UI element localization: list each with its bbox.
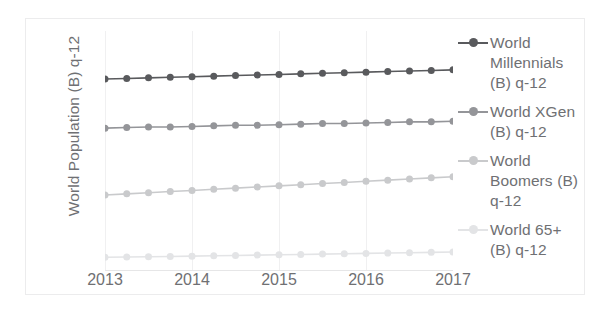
data-point[interactable] — [105, 76, 109, 83]
legend-entry-3[interactable]: World Boomers (B) q-12 — [458, 151, 580, 211]
data-point[interactable] — [189, 73, 196, 80]
y-axis-title: World Population (B) q-12 — [65, 16, 83, 236]
data-point[interactable] — [341, 120, 348, 127]
x-tick-label-2015: 2015 — [261, 271, 297, 289]
data-point[interactable] — [363, 120, 370, 127]
data-point[interactable] — [276, 251, 283, 258]
data-point[interactable] — [297, 181, 304, 188]
data-point[interactable] — [384, 119, 391, 126]
legend-dot — [469, 38, 478, 47]
line-chart-svg — [105, 31, 453, 271]
legend-entry-2[interactable]: World XGen (B) q-12 — [458, 102, 580, 142]
legend-label: World 65+ (B) q-12 — [490, 220, 580, 260]
chart-legend: World Millennials (B) q-12World XGen (B)… — [458, 33, 580, 269]
legend-entry-1[interactable]: World Millennials (B) q-12 — [458, 33, 580, 93]
legend-marker-icon — [458, 33, 488, 52]
data-point[interactable] — [363, 69, 370, 76]
chart-container: World Population (B) q-12 20132014201520… — [25, 18, 585, 295]
data-point[interactable] — [450, 249, 454, 256]
plot-area — [105, 31, 453, 271]
data-point[interactable] — [189, 253, 196, 260]
data-point[interactable] — [297, 70, 304, 77]
data-point[interactable] — [384, 177, 391, 184]
data-point[interactable] — [105, 125, 109, 132]
legend-label: World XGen (B) q-12 — [490, 102, 580, 142]
data-point[interactable] — [232, 252, 239, 259]
data-point[interactable] — [210, 73, 217, 80]
data-point[interactable] — [254, 184, 261, 191]
data-point[interactable] — [341, 179, 348, 186]
data-point[interactable] — [105, 254, 109, 261]
data-point[interactable] — [384, 250, 391, 257]
data-point[interactable] — [406, 249, 413, 256]
data-point[interactable] — [167, 124, 174, 131]
data-point[interactable] — [406, 176, 413, 183]
data-point[interactable] — [319, 180, 326, 187]
data-point[interactable] — [297, 251, 304, 258]
data-point[interactable] — [363, 250, 370, 257]
data-point[interactable] — [123, 75, 130, 82]
data-point[interactable] — [384, 68, 391, 75]
data-point[interactable] — [319, 120, 326, 127]
data-point[interactable] — [145, 189, 152, 196]
data-point[interactable] — [406, 68, 413, 75]
data-point[interactable] — [341, 69, 348, 76]
legend-entry-4[interactable]: World 65+ (B) q-12 — [458, 220, 580, 260]
data-point[interactable] — [145, 74, 152, 81]
data-point[interactable] — [450, 118, 454, 125]
x-tick-label-2017: 2017 — [435, 271, 471, 289]
data-point[interactable] — [105, 192, 109, 199]
legend-dot — [469, 107, 478, 116]
x-axis-tick-labels: 20132014201520162017 — [105, 271, 453, 299]
legend-marker-icon — [458, 220, 488, 239]
data-point[interactable] — [145, 253, 152, 260]
data-point[interactable] — [210, 122, 217, 129]
legend-dot — [469, 156, 478, 165]
gridlines — [106, 31, 454, 271]
data-point[interactable] — [210, 186, 217, 193]
data-point[interactable] — [254, 122, 261, 129]
data-point[interactable] — [123, 124, 130, 131]
data-point[interactable] — [123, 190, 130, 197]
data-point[interactable] — [319, 251, 326, 258]
data-point[interactable] — [232, 185, 239, 192]
data-point[interactable] — [428, 249, 435, 256]
data-point[interactable] — [232, 122, 239, 129]
data-point[interactable] — [210, 252, 217, 259]
data-point[interactable] — [167, 253, 174, 260]
data-point[interactable] — [167, 74, 174, 81]
legend-label: World Millennials (B) q-12 — [490, 33, 580, 93]
legend-marker-icon — [458, 151, 488, 170]
data-point[interactable] — [428, 174, 435, 181]
legend-marker-icon — [458, 102, 488, 121]
data-point[interactable] — [145, 124, 152, 131]
data-point[interactable] — [232, 72, 239, 79]
legend-label: World Boomers (B) q-12 — [490, 151, 580, 211]
data-point[interactable] — [189, 187, 196, 194]
data-point[interactable] — [406, 118, 413, 125]
legend-dot — [469, 225, 478, 234]
data-point[interactable] — [189, 123, 196, 130]
x-tick-label-2013: 2013 — [87, 271, 123, 289]
data-point[interactable] — [428, 118, 435, 125]
data-point[interactable] — [276, 71, 283, 78]
data-point[interactable] — [276, 121, 283, 128]
data-point[interactable] — [167, 188, 174, 195]
data-point[interactable] — [276, 182, 283, 189]
data-point[interactable] — [254, 72, 261, 79]
x-tick-label-2014: 2014 — [174, 271, 210, 289]
x-tick-label-2016: 2016 — [348, 271, 384, 289]
data-point[interactable] — [123, 254, 130, 261]
data-point[interactable] — [450, 173, 454, 180]
data-point[interactable] — [428, 67, 435, 74]
data-point[interactable] — [341, 250, 348, 257]
data-point[interactable] — [363, 178, 370, 185]
data-point[interactable] — [297, 121, 304, 128]
data-point[interactable] — [450, 66, 454, 73]
data-point[interactable] — [319, 70, 326, 77]
data-point[interactable] — [254, 252, 261, 259]
